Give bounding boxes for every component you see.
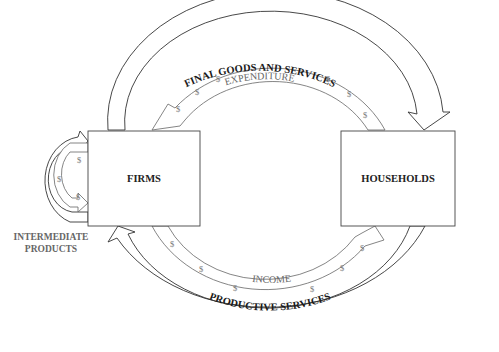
dollar-icon: $ xyxy=(233,283,237,293)
intermediate-label-line2: PRODUCTS xyxy=(25,244,77,254)
dollar-icon: $ xyxy=(340,263,344,273)
intermediate-label-line1: INTERMEDIATE xyxy=(14,232,89,242)
dollar-icon: $ xyxy=(326,74,330,84)
dollar-icon: $ xyxy=(363,110,367,120)
dollar-icon: $ xyxy=(77,155,81,165)
dollar-icon: $ xyxy=(195,87,199,97)
dollar-icon: $ xyxy=(360,243,364,253)
dollar-icon: $ xyxy=(76,192,80,202)
firms-label: FIRMS xyxy=(127,173,161,184)
dollar-icon: $ xyxy=(199,264,203,274)
firms-node: FIRMS xyxy=(88,131,200,226)
dollar-icon: $ xyxy=(170,239,174,249)
intermediate-products-loop xyxy=(45,131,88,222)
households-label: HOUSEHOLDS xyxy=(361,173,435,184)
circular-flow-diagram: FIRMS HOUSEHOLDS FINAL GOODS AND SERVICE… xyxy=(0,0,499,352)
dollar-icon: $ xyxy=(310,284,314,294)
dollar-icon: $ xyxy=(57,174,61,184)
income-label: INCOME xyxy=(252,272,292,285)
dollar-icon: $ xyxy=(216,74,220,84)
dollar-icon: $ xyxy=(176,104,180,114)
dollar-icon: $ xyxy=(347,89,351,99)
households-node: HOUSEHOLDS xyxy=(341,131,455,226)
